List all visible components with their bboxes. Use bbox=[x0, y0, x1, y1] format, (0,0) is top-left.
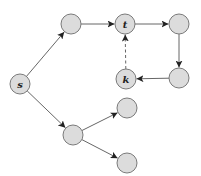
node-k: k bbox=[116, 69, 136, 89]
node-c bbox=[169, 68, 189, 88]
node-a bbox=[61, 14, 81, 34]
node-circle bbox=[169, 14, 189, 34]
node-b bbox=[169, 14, 189, 34]
edges-layer bbox=[26, 24, 179, 158]
edge-s-to-d bbox=[27, 91, 65, 128]
node-circle bbox=[61, 14, 81, 34]
node-label: k bbox=[123, 74, 130, 85]
node-circle bbox=[169, 68, 189, 88]
edge-d-to-e bbox=[82, 113, 118, 131]
edge-k-to-t bbox=[125, 34, 126, 69]
edge-d-to-f bbox=[82, 140, 118, 159]
node-t: t bbox=[115, 14, 135, 34]
node-circle bbox=[63, 125, 83, 145]
node-e bbox=[117, 98, 137, 118]
graph-diagram: stk bbox=[0, 0, 201, 176]
edge-s-to-a bbox=[26, 32, 64, 76]
node-d bbox=[63, 125, 83, 145]
node-s: s bbox=[10, 74, 30, 94]
node-label: t bbox=[123, 19, 128, 30]
node-circle bbox=[117, 153, 137, 173]
node-circle bbox=[117, 98, 137, 118]
node-f bbox=[117, 153, 137, 173]
edge-c-to-k bbox=[136, 78, 169, 79]
node-label: s bbox=[17, 79, 23, 90]
